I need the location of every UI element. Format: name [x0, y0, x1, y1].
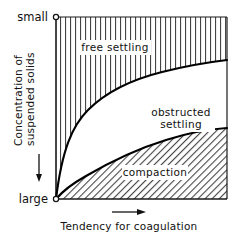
- top-left-origin-marker: [53, 14, 58, 19]
- y-axis-direction-arrow: [36, 154, 42, 182]
- y-axis-title-group: Concentration of suspended solids: [12, 52, 42, 182]
- x-axis-direction-arrow: [112, 209, 146, 215]
- figure-container: small large Concentration of suspended s…: [0, 0, 238, 236]
- y-axis-title-line2: suspended solids: [24, 52, 36, 146]
- obstructed-settling-label-line1: obstructed: [151, 106, 211, 118]
- y-axis-bottom-label: large: [19, 192, 48, 206]
- settling-regimes-diagram: small large Concentration of suspended s…: [0, 0, 238, 236]
- bottom-left-origin-marker: [53, 196, 58, 201]
- y-axis-title-line1: Concentration of: [12, 55, 24, 146]
- obstructed-settling-label-line2: settling: [160, 118, 202, 130]
- region-label-free-settling: free settling: [79, 40, 151, 55]
- y-axis-top-label: small: [17, 10, 48, 24]
- region-label-compaction: compaction: [122, 165, 188, 180]
- x-axis-title: Tendency for coagulation: [60, 220, 198, 232]
- compaction-label: compaction: [123, 166, 187, 178]
- free-settling-label: free settling: [81, 41, 148, 53]
- region-label-obstructed-settling: obstructed settling: [147, 105, 215, 132]
- x-axis-title-group: Tendency for coagulation: [60, 209, 198, 232]
